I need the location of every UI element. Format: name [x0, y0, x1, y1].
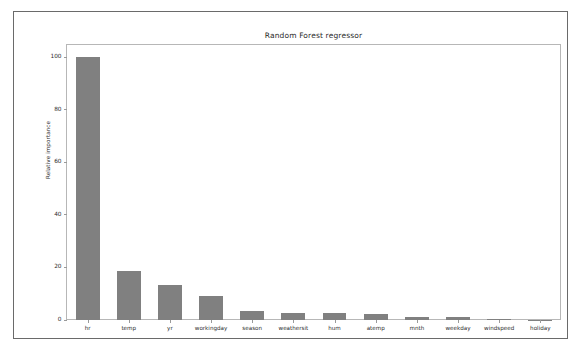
x-axis-tick-label: hr — [85, 325, 91, 331]
x-axis-tick-label: hum — [328, 325, 341, 331]
y-axis-tick-label: 40 — [54, 211, 65, 217]
x-axis-tick-mark — [129, 320, 130, 323]
x-axis-tick-label: mnth — [409, 325, 424, 331]
bar-slot[interactable]: workingday — [190, 44, 231, 320]
bar[interactable] — [76, 57, 100, 320]
chart-title: Random Forest regressor — [66, 31, 561, 40]
bar[interactable] — [240, 311, 264, 320]
y-axis-tick-label: 60 — [54, 158, 65, 164]
x-axis-tick-mark — [293, 320, 294, 323]
x-axis-tick-mark — [376, 320, 377, 323]
x-axis-tick-label: holiday — [530, 325, 550, 331]
x-axis-tick-mark — [540, 320, 541, 323]
bar-slot[interactable]: yr — [149, 44, 190, 320]
x-axis-tick-label: atemp — [367, 325, 385, 331]
bar-slot[interactable]: atemp — [355, 44, 396, 320]
y-axis-tick-label: 80 — [54, 106, 65, 112]
x-axis-tick-label: windspeed — [484, 325, 514, 331]
x-axis-tick-mark — [335, 320, 336, 323]
bar[interactable] — [323, 313, 347, 320]
x-axis-tick-mark — [252, 320, 253, 323]
x-axis-tick-label: weathersit — [279, 325, 309, 331]
x-axis-tick-label: temp — [121, 325, 136, 331]
x-axis-tick-label: yr — [167, 325, 173, 331]
x-axis-tick-mark — [499, 320, 500, 323]
bar[interactable] — [281, 313, 305, 320]
bar-slot[interactable]: season — [232, 44, 273, 320]
figure-frame: Random Forest regressor Relative importa… — [13, 11, 568, 339]
bar-series: hrtempyrworkingdayseasonweathersithumate… — [67, 44, 561, 320]
x-axis-tick-label: workingday — [195, 325, 227, 331]
y-axis-tick-label: 100 — [50, 53, 65, 59]
x-axis-tick-mark — [458, 320, 459, 323]
y-axis-label: Relative importance — [45, 90, 51, 210]
y-axis-tick-label: 0 — [58, 316, 65, 322]
bar-slot[interactable]: weathersit — [273, 44, 314, 320]
x-axis-tick-label: weekday — [445, 325, 470, 331]
bar-slot[interactable]: hr — [67, 44, 108, 320]
bar-slot[interactable]: weekday — [437, 44, 478, 320]
y-axis-tick-label: 20 — [54, 263, 65, 269]
bar[interactable] — [199, 296, 223, 320]
x-axis-tick-mark — [211, 320, 212, 323]
bar-slot[interactable]: windspeed — [479, 44, 520, 320]
bar-slot[interactable]: hum — [314, 44, 355, 320]
bar-slot[interactable]: holiday — [520, 44, 561, 320]
bar[interactable] — [117, 271, 141, 320]
bar-slot[interactable]: mnth — [396, 44, 437, 320]
x-axis-tick-mark — [170, 320, 171, 323]
x-axis-tick-mark — [88, 320, 89, 323]
plot-area: 020406080100 hrtempyrworkingdayseasonwea… — [67, 44, 561, 320]
bar[interactable] — [158, 285, 182, 320]
bar-slot[interactable]: temp — [108, 44, 149, 320]
x-axis-tick-mark — [417, 320, 418, 323]
x-axis-tick-label: season — [242, 325, 262, 331]
